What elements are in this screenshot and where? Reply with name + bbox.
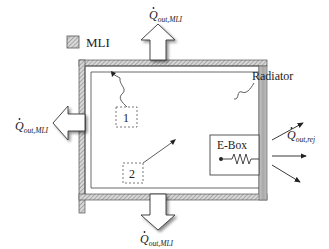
heat-arrow-top bbox=[141, 24, 175, 60]
callout-2: 2 bbox=[123, 139, 176, 183]
svg-text:Qout,rej: Qout,rej bbox=[287, 128, 315, 144]
radiator-panel bbox=[259, 66, 267, 200]
svg-text:Qout,MLI: Qout,MLI bbox=[140, 232, 174, 248]
ebox-label: E-Box bbox=[217, 139, 247, 151]
q-label-top: Qout,MLI bbox=[149, 7, 183, 24]
svg-text:Qout,MLI: Qout,MLI bbox=[15, 119, 49, 135]
ebox: E-Box bbox=[210, 135, 259, 175]
q-label-rej: Qout,rej bbox=[287, 127, 315, 144]
mli-legend-label: MLI bbox=[86, 35, 110, 50]
svg-text:2: 2 bbox=[129, 167, 135, 181]
mli-legend-swatch bbox=[67, 36, 79, 48]
q-label-bottom: Qout,MLI bbox=[140, 231, 174, 248]
radiator-label: Radiator bbox=[252, 69, 293, 83]
q-label-left: Qout,MLI bbox=[15, 118, 49, 135]
legend: MLI bbox=[67, 35, 110, 50]
thermal-diagram: MLI E-Box 1 bbox=[0, 0, 329, 249]
callout-1: 1 bbox=[111, 71, 137, 127]
svg-text:1: 1 bbox=[123, 111, 129, 125]
svg-text:Qout,MLI: Qout,MLI bbox=[149, 8, 183, 24]
